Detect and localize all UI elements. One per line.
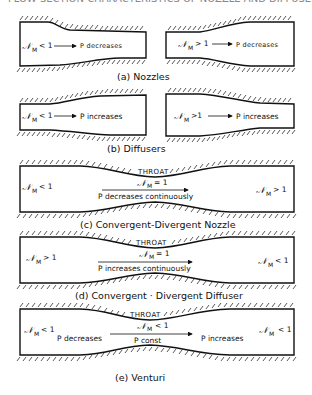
svg-text:M: M <box>147 182 152 189</box>
svg-text:< 1: < 1 <box>39 111 53 120</box>
svg-text:P const: P const <box>134 336 161 345</box>
flow-sections-diagram: 𝒩 M < 1 P decreases 𝒩 M > 1 P decreases … <box>0 0 312 395</box>
svg-text:M: M <box>34 330 39 337</box>
svg-text:P increases: P increases <box>80 112 123 121</box>
svg-text:M: M <box>32 46 37 53</box>
svg-text:M: M <box>188 44 193 51</box>
svg-text:P increases: P increases <box>201 334 244 343</box>
throat-label: THROAT <box>129 311 161 319</box>
panel-a-subsonic-nozzle: 𝒩 M < 1 P decreases <box>17 16 146 72</box>
svg-text:P increases continuously: P increases continuously <box>98 264 191 273</box>
caption-a: (a) Nozzles <box>117 71 170 82</box>
caption-e: (e) Venturi <box>115 372 165 383</box>
svg-text:>1: >1 <box>191 111 202 120</box>
svg-text:P decreases: P decreases <box>57 334 102 343</box>
panel-b-subsonic-diffuser: 𝒩 M < 1 P increases <box>17 89 146 141</box>
panel-d-cd-diffuser: THROAT 𝒩 M > 1 𝒩 M = 1 P increases conti… <box>17 231 296 289</box>
svg-text:M: M <box>32 187 37 194</box>
svg-text:P decreases: P decreases <box>80 42 123 50</box>
svg-text:M: M <box>147 325 152 332</box>
svg-text:< 1: < 1 <box>275 256 289 265</box>
svg-text:> 1: > 1 <box>273 185 287 194</box>
svg-text:> 1: > 1 <box>195 39 209 48</box>
svg-text:< 1: < 1 <box>39 182 53 191</box>
svg-text:< 1: < 1 <box>278 325 292 334</box>
svg-text:M: M <box>266 190 271 197</box>
svg-text:> 1: > 1 <box>43 253 57 262</box>
svg-text:M: M <box>32 116 37 123</box>
svg-text:P increases: P increases <box>236 112 279 121</box>
svg-text:M: M <box>268 261 273 268</box>
svg-text:< 1: < 1 <box>155 321 169 330</box>
svg-text:= 1: = 1 <box>156 249 170 258</box>
caption-b: (b) Diffusers <box>107 143 166 154</box>
svg-text:P decreases continuously: P decreases continuously <box>98 192 194 201</box>
svg-text:P decreases: P decreases <box>236 41 279 49</box>
throat-label: THROAT <box>135 239 167 247</box>
panel-a-supersonic-nozzle: 𝒩 M > 1 P decreases <box>166 16 295 72</box>
svg-text:< 1: < 1 <box>39 41 53 50</box>
panel-e-venturi: THROAT 𝒩 M < 1 P decreases 𝒩 M < 1 P con… <box>17 303 296 361</box>
svg-text:M: M <box>149 253 154 260</box>
caption-c: (c) Convergent-Divergent Nozzle <box>80 219 236 230</box>
svg-text:= 1: = 1 <box>154 178 168 187</box>
svg-text:M: M <box>269 330 274 337</box>
svg-text:M: M <box>36 258 41 265</box>
svg-text:< 1: < 1 <box>41 325 55 334</box>
panel-c-cd-nozzle: THROAT 𝒩 M < 1 𝒩 M = 1 P decreases conti… <box>17 160 296 218</box>
svg-text:M: M <box>184 116 189 123</box>
throat-label: THROAT <box>137 168 169 176</box>
caption-d: (d) Convergent · Divergent Diffuser <box>75 290 243 301</box>
panel-b-supersonic-diffuser: 𝒩 M >1 P increases <box>166 88 295 142</box>
